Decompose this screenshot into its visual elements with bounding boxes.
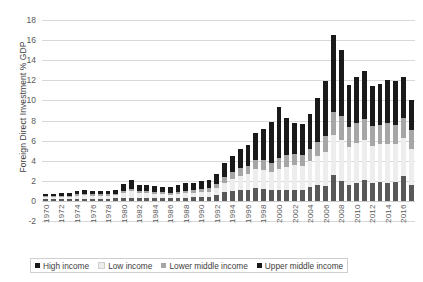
y-axis-tick-label: 6 — [31, 136, 36, 146]
bar-stack — [261, 129, 266, 201]
bar-segment — [393, 144, 398, 182]
bar-segment — [59, 199, 64, 201]
legend-item[interactable]: High income — [35, 261, 89, 271]
bar-segment — [230, 179, 235, 191]
bar-segment — [347, 185, 352, 201]
bar-stack — [207, 180, 212, 201]
bar-segment — [347, 147, 352, 186]
bar-segment — [315, 185, 320, 201]
bar-segment — [144, 198, 149, 201]
bar-stack — [308, 114, 313, 201]
bar-stack — [409, 100, 414, 201]
bar-segment — [75, 199, 80, 201]
bar-segment — [292, 154, 297, 165]
bar-stack — [67, 193, 72, 201]
bar-segment — [362, 71, 367, 118]
bar-segment — [253, 169, 258, 188]
bar-segment — [409, 100, 414, 130]
bar-segment — [253, 188, 258, 201]
bar-stack — [362, 71, 367, 201]
bar-segment — [323, 186, 328, 201]
bar-segment — [331, 175, 336, 201]
bar-segment — [393, 81, 398, 124]
bar-segment — [284, 167, 289, 190]
x-axis-tick-label: 1992 — [212, 204, 221, 223]
bar-segment — [362, 140, 367, 180]
bar-segment — [292, 123, 297, 155]
x-axis-tick-label: 1970 — [41, 204, 50, 223]
bar-segment — [370, 126, 375, 146]
chart-legend: High incomeLow incomeLower middle income… — [30, 258, 348, 273]
x-axis-tick-label: 2002 — [290, 204, 299, 223]
bar-segment — [331, 35, 336, 112]
legend-item[interactable]: Low income — [98, 261, 152, 271]
x-axis-tick-label: 1976 — [88, 204, 97, 223]
legend-label: Lower middle income — [169, 261, 247, 271]
bar-stack — [347, 85, 352, 201]
bar-segment — [261, 170, 266, 190]
bar-stack — [75, 191, 80, 201]
bar-segment — [378, 125, 383, 145]
bar-segment — [222, 183, 227, 193]
bar-segment — [261, 129, 266, 160]
bar-segment — [401, 118, 406, 138]
y-axis-tick-label: 2 — [31, 176, 36, 186]
bar-stack — [106, 191, 111, 201]
bar-segment — [300, 155, 305, 166]
bar-segment — [67, 199, 72, 201]
bar-segment — [238, 168, 243, 176]
bar-segment — [106, 199, 111, 201]
bar-stack — [323, 81, 328, 201]
bar-segment — [238, 149, 243, 168]
bar-stack — [199, 181, 204, 201]
bar-segment — [339, 50, 344, 116]
x-axis-tick-label: 1982 — [135, 204, 144, 223]
bar-segment — [339, 140, 344, 182]
bar-segment — [222, 192, 227, 201]
bar-segment — [354, 77, 359, 123]
bar-segment — [269, 122, 274, 163]
bar-segment — [191, 197, 196, 201]
bar-segment — [176, 198, 181, 201]
bar-stack — [51, 194, 56, 201]
bar-segment — [331, 135, 336, 176]
bar-segment — [331, 112, 336, 134]
bar-segment — [385, 183, 390, 201]
bar-stack — [300, 124, 305, 201]
bar-segment — [362, 180, 367, 201]
bar-segment — [121, 184, 126, 191]
bar-segment — [230, 156, 235, 173]
legend-swatch-icon — [35, 263, 40, 268]
bar-segment — [246, 166, 251, 174]
y-axis-tick-labels: -2024681012141618 — [0, 20, 42, 221]
x-axis-tick-label: 1994 — [228, 204, 237, 223]
legend-item[interactable]: Lower middle income — [161, 261, 247, 271]
y-axis-tick-label: 4 — [31, 156, 36, 166]
bar-segment — [292, 165, 297, 191]
legend-label: Upper middle income — [265, 261, 343, 271]
legend-item[interactable]: Upper middle income — [257, 261, 343, 271]
bar-stack — [113, 190, 118, 201]
bar-segment — [284, 190, 289, 201]
bar-segment — [222, 163, 227, 177]
bar-segment — [378, 144, 383, 182]
bar-stack — [238, 149, 243, 201]
bar-segment — [323, 152, 328, 186]
bar-segment — [277, 190, 282, 201]
y-axis-tick-label: 10 — [27, 95, 36, 105]
x-axis-tick-label: 2006 — [321, 204, 330, 223]
bar-stack — [354, 77, 359, 201]
bar-segment — [409, 149, 414, 185]
bar-segment — [152, 198, 157, 201]
bar-segment — [191, 183, 196, 191]
bar-segment — [90, 199, 95, 201]
bar-stack — [82, 190, 87, 201]
x-axis-tick-label: 1974 — [72, 204, 81, 223]
bar-segment — [385, 144, 390, 183]
bar-segment — [409, 130, 414, 149]
bar-segment — [183, 198, 188, 201]
legend-swatch-icon — [98, 262, 105, 269]
bar-stack — [129, 180, 134, 201]
bar-stack — [160, 187, 165, 201]
bar-segment — [378, 84, 383, 124]
